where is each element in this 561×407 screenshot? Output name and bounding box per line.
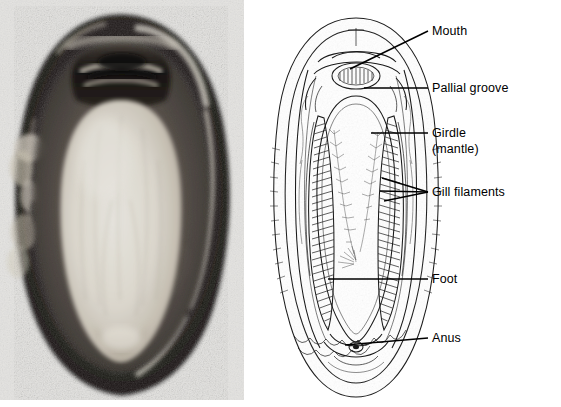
label-text-pallial-groove: Pallial groove [432,81,508,95]
chiton-ventral-diagram: MouthPallial grooveGirdle(mantle)Gill fi… [244,0,561,407]
label-text-mouth: Mouth [432,24,467,38]
photo-grain-overlay [0,0,244,400]
label-text-foot: Foot [432,272,458,286]
diagram-canvas: MouthPallial grooveGirdle(mantle)Gill fi… [244,0,561,407]
photograph-content [0,0,244,400]
leader-line-gill-filaments-2 [380,191,428,192]
chiton-ventral-photograph [0,0,244,400]
photograph-canvas [0,0,244,400]
label-text-gill-filaments: Gill filaments [432,185,505,199]
label-text-anus: Anus [432,331,461,345]
figure-root: MouthPallial grooveGirdle(mantle)Gill fi… [0,0,561,407]
label-text-girdle-mantle: Girdle [432,126,466,140]
label-subtext-girdle-mantle: (mantle) [432,142,479,156]
